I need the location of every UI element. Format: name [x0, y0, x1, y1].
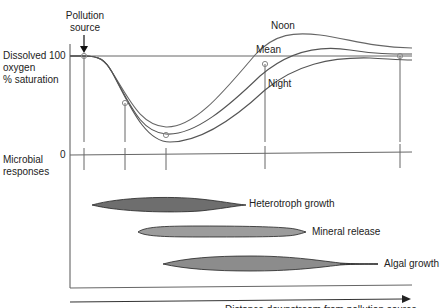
algal-growth-bar — [163, 256, 378, 271]
x-axis — [70, 285, 412, 288]
tick-100: 100 — [49, 50, 66, 62]
zero-line — [70, 152, 412, 155]
pollution-arrow-icon — [80, 35, 88, 53]
y-axis-lower-label: Microbial responses — [3, 154, 49, 178]
curve-mean — [70, 48, 412, 134]
pollution-source-label: Pollution source — [55, 10, 115, 34]
sample-points — [81, 53, 402, 137]
oxygen-sag-diagram — [0, 0, 441, 308]
curve-label-mean: Mean — [256, 44, 281, 56]
curve-label-noon: Noon — [271, 20, 295, 32]
x-arrow-caption: Distance downstream from pollution sourc… — [225, 304, 417, 308]
downstream-arrow-icon — [70, 295, 411, 303]
algal-growth-label: Algal growth — [384, 258, 439, 270]
curve-night — [70, 56, 412, 142]
mineral-release-label: Mineral release — [312, 226, 380, 238]
heterotroph-growth-label: Heterotroph growth — [249, 198, 335, 210]
curve-label-night: Night — [268, 78, 291, 90]
mineral-release-bar — [138, 226, 306, 237]
curve-noon — [70, 34, 412, 127]
heterotroph-growth-bar — [92, 197, 246, 211]
tick-0: 0 — [60, 149, 66, 161]
